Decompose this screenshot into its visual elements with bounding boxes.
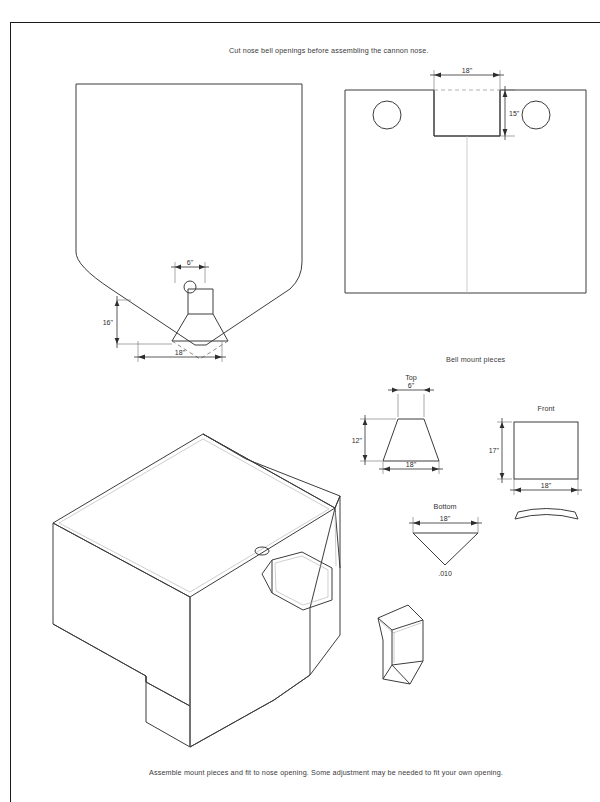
drawing-sheet: Cut nose bell openings before assembling… [0,0,600,802]
front-piece-label: Front [538,404,555,413]
bottom-piece-thickness-note: .010 [438,570,452,577]
bottom-piece-label: Bottom [434,502,457,511]
dim-6in-nose: 6" [171,259,209,283]
bottom-piece-view: Bottom 18" .010 [409,502,482,577]
dim-label-15in-panel: 15" [509,110,520,117]
top-piece-view: Top 6" 12" [352,373,443,474]
dim-18in-bottom: 18" [409,515,482,533]
dim-label-18in-panel: 18" [462,67,473,74]
dim-label-16in-nose: 16" [103,319,114,326]
nose-top-panel-view: 18" 15" [345,67,586,293]
dim-label-17in-front: 17" [489,447,500,454]
dim-15in-panel: 15" [500,86,520,140]
dim-18in-front: 18" [510,479,582,495]
top-piece-label: Top [405,373,417,382]
dim-label-18in-front: 18" [541,482,552,489]
dim-label-18in-bottom: 18" [440,515,451,522]
dim-label-6in-nose: 6" [187,259,194,266]
dim-label-6in-top: 6" [408,382,415,389]
dim-label-18in-top: 18" [406,461,417,468]
dim-16in-nose: 16" [103,296,172,348]
dim-18in-panel: 18" [430,67,504,90]
bell-mount-isometric [378,605,423,684]
front-piece-view: Front 17" 18" [489,404,582,519]
dim-17in-front: 17" [489,418,512,483]
dim-6in-top: 6" [388,382,434,417]
dim-label-18in-nose: 18" [175,349,186,356]
dim-18in-top: 18" [379,461,443,474]
nose-profile-view: 6" 16" 18" [76,84,302,362]
cannon-nose-isometric [53,434,340,747]
drawing-linework: 6" 16" 18" [0,0,600,802]
dim-label-12in-top: 12" [352,437,363,444]
